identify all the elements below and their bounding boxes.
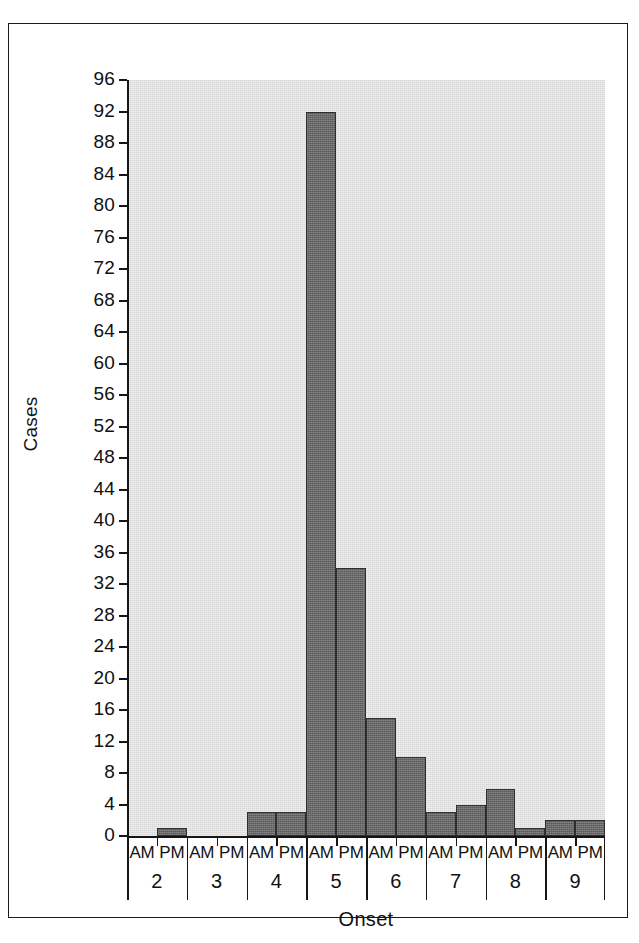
bar xyxy=(396,757,426,836)
x-axis-day-label: 5 xyxy=(306,866,366,896)
x-axis-ampm-label: PM xyxy=(336,840,366,866)
y-axis-tick-label: 4 xyxy=(104,793,115,815)
x-axis-group-separator xyxy=(545,838,547,900)
y-axis-tick-label: 48 xyxy=(93,446,115,468)
x-axis-ampm-label: PM xyxy=(575,840,605,866)
y-axis-tick-label: 56 xyxy=(93,383,115,405)
y-axis-tick-mark xyxy=(119,552,127,554)
y-axis-tick-label: 12 xyxy=(93,730,115,752)
y-axis-tick-mark xyxy=(119,174,127,176)
x-axis-group-separator xyxy=(187,838,189,900)
bar xyxy=(336,568,366,836)
y-axis-tick-label: 32 xyxy=(93,572,115,594)
y-axis-tick-label: 20 xyxy=(93,667,115,689)
bar xyxy=(157,828,187,836)
x-axis-ampm-label: PM xyxy=(396,840,426,866)
y-axis-tick-mark xyxy=(119,678,127,680)
bar xyxy=(575,820,605,836)
x-axis-ampm-label: PM xyxy=(217,840,247,866)
y-axis-tick-mark xyxy=(119,772,127,774)
y-axis-tick-mark xyxy=(119,205,127,207)
x-axis-ampm-label: AM xyxy=(127,840,157,866)
x-axis-group-separator xyxy=(486,838,488,900)
y-axis-tick-mark xyxy=(119,457,127,459)
y-axis-tick-label: 64 xyxy=(93,320,115,342)
x-axis-ampm-label: PM xyxy=(515,840,545,866)
y-axis-tick-label: 40 xyxy=(93,509,115,531)
bar xyxy=(306,112,336,837)
y-axis-tick-label: 16 xyxy=(93,698,115,720)
x-axis-ampm-label: AM xyxy=(366,840,396,866)
x-axis-title: Onset xyxy=(127,908,605,931)
y-axis-tick-label: 44 xyxy=(93,478,115,500)
x-axis-labels: AMPM2AMPM3AMPM4AMPM5AMPM6AMPM7AMPM8AMPM9 xyxy=(127,838,605,900)
x-axis-day-group: AMPM8 xyxy=(486,838,546,900)
x-axis-day-group: AMPM7 xyxy=(426,838,486,900)
y-axis-line xyxy=(127,80,129,838)
x-axis-day-group: AMPM2 xyxy=(127,838,187,900)
y-axis-tick-mark xyxy=(119,394,127,396)
y-axis-tick-label: 24 xyxy=(93,635,115,657)
y-axis-tick-mark xyxy=(119,142,127,144)
y-axis-tick-label: 92 xyxy=(93,100,115,122)
x-axis-day-group: AMPM5 xyxy=(306,838,366,900)
x-axis-day-group: AMPM4 xyxy=(247,838,307,900)
x-axis-day-label: 8 xyxy=(486,866,546,896)
x-axis-ampm-label: PM xyxy=(157,840,187,866)
bar xyxy=(276,812,306,836)
bar xyxy=(426,812,456,836)
y-axis-tick-mark xyxy=(119,426,127,428)
bar xyxy=(456,805,486,837)
y-axis-tick-mark xyxy=(119,300,127,302)
y-axis-tick-mark xyxy=(119,709,127,711)
figure-frame: Cases 0481216202428323640444852566064687… xyxy=(8,23,628,918)
x-axis-day-label: 7 xyxy=(426,866,486,896)
y-axis-tick-mark xyxy=(119,520,127,522)
bar xyxy=(545,820,575,836)
y-axis-tick-mark xyxy=(119,615,127,617)
y-axis-title: Cases xyxy=(20,364,40,484)
y-axis-tick-label: 28 xyxy=(93,604,115,626)
x-axis-ampm-label: AM xyxy=(486,840,516,866)
x-axis-minor-tick xyxy=(396,837,398,846)
x-axis-minor-tick xyxy=(336,837,338,846)
y-axis-tick-label: 0 xyxy=(104,824,115,846)
y-axis-tick-label: 52 xyxy=(93,415,115,437)
x-axis-day-label: 6 xyxy=(366,866,426,896)
x-axis-ampm-label: AM xyxy=(247,840,277,866)
x-axis-ampm-label: PM xyxy=(276,840,306,866)
x-axis-group-separator xyxy=(247,838,249,900)
bar xyxy=(515,828,545,836)
y-axis-tick-mark xyxy=(119,646,127,648)
bar xyxy=(486,789,516,836)
x-axis-day-group: AMPM9 xyxy=(545,838,605,900)
x-axis-minor-tick xyxy=(456,837,458,846)
x-axis-group-separator xyxy=(306,838,308,900)
y-axis-tick-mark xyxy=(119,804,127,806)
y-axis-tick-label: 80 xyxy=(93,194,115,216)
x-axis-minor-tick xyxy=(217,837,219,846)
x-axis-minor-tick xyxy=(276,837,278,846)
x-axis-day-label: 2 xyxy=(127,866,187,896)
y-axis-tick-mark xyxy=(119,363,127,365)
x-axis-day-label: 3 xyxy=(187,866,247,896)
x-axis-minor-tick xyxy=(575,837,577,846)
x-axis-day-label: 4 xyxy=(247,866,307,896)
x-axis-day-group: AMPM3 xyxy=(187,838,247,900)
bar xyxy=(247,812,277,836)
y-axis-tick-label: 76 xyxy=(93,226,115,248)
y-axis-tick-mark xyxy=(119,835,127,837)
y-axis-tick-mark xyxy=(119,489,127,491)
y-axis-tick-label: 36 xyxy=(93,541,115,563)
x-axis-day-group: AMPM6 xyxy=(366,838,426,900)
y-axis-tick-mark xyxy=(119,237,127,239)
y-axis-tick-label: 72 xyxy=(93,257,115,279)
x-axis-day-label: 9 xyxy=(545,866,605,896)
y-axis-tick-mark xyxy=(119,111,127,113)
y-axis-tick-mark xyxy=(119,331,127,333)
x-axis-ampm-label: AM xyxy=(426,840,456,866)
y-axis-tick-label: 96 xyxy=(93,68,115,90)
plot-area-wrapper xyxy=(127,80,605,836)
y-axis-tick-label: 60 xyxy=(93,352,115,374)
x-axis-group-separator xyxy=(604,838,606,900)
